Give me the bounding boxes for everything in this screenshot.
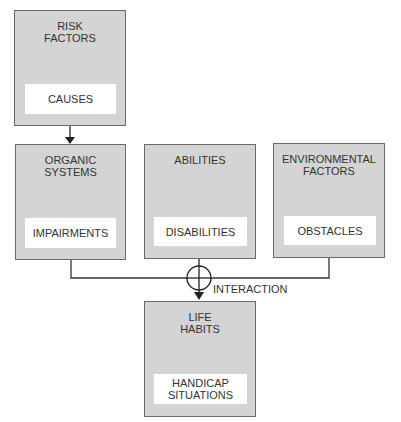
node-title: LIFE HABITS <box>145 311 255 335</box>
node-title: ORGANIC SYSTEMS <box>16 154 125 178</box>
line-environmental-to-interaction <box>211 258 329 278</box>
node-environmental-factors: ENVIRONMENTAL FACTORS OBSTACLES <box>273 143 385 258</box>
arrowhead-icon <box>65 137 75 144</box>
node-risk-factors: RISK FACTORS CAUSES <box>14 10 126 126</box>
node-abilities: ABILITIES DISABILITIES <box>144 144 256 259</box>
node-inner-obstacles: OBSTACLES <box>284 216 376 245</box>
node-title: RISK FACTORS <box>15 20 125 44</box>
node-inner-impairments: IMPAIRMENTS <box>25 218 116 248</box>
node-inner-disabilities: DISABILITIES <box>154 217 247 246</box>
node-title: ENVIRONMENTAL FACTORS <box>274 153 384 177</box>
node-organic-systems: ORGANIC SYSTEMS IMPAIRMENTS <box>15 144 126 260</box>
arrowhead-icon <box>194 292 204 300</box>
node-inner-causes: CAUSES <box>25 84 116 114</box>
node-title: ABILITIES <box>145 154 255 166</box>
interaction-label: INTERACTION <box>213 283 288 295</box>
node-life-habits: LIFE HABITS HANDICAP SITUATIONS <box>144 301 256 417</box>
node-inner-handicap-situations: HANDICAP SITUATIONS <box>154 374 247 404</box>
line-organic-to-interaction <box>71 260 187 278</box>
